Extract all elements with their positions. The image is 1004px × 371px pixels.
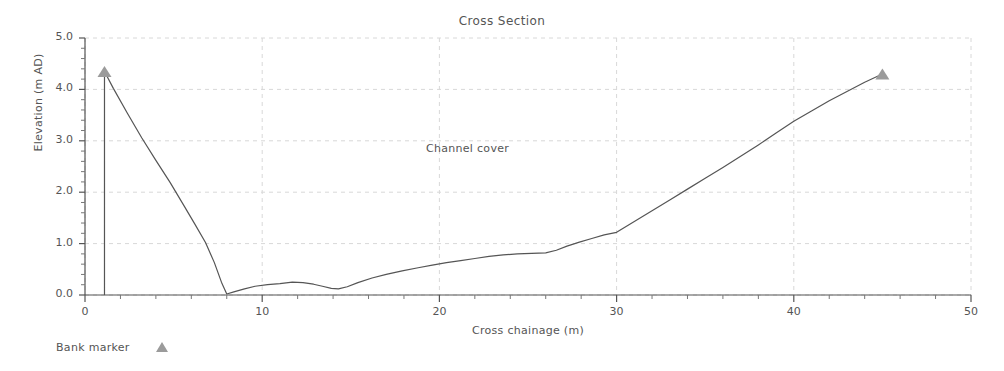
- x-tick-label: 30: [597, 305, 637, 318]
- x-tick-label: 0: [65, 305, 105, 318]
- y-tick-label: 0.0: [33, 287, 73, 300]
- channel-cover-annotation: Channel cover: [426, 142, 509, 155]
- legend: Bank marker: [56, 340, 170, 354]
- y-tick-label: 5.0: [33, 30, 73, 43]
- axis-ticks: [79, 38, 971, 302]
- bank-markers: [97, 66, 889, 80]
- y-tick-label: 4.0: [33, 81, 73, 94]
- x-tick-label: 10: [242, 305, 282, 318]
- x-tick-label: 40: [774, 305, 814, 318]
- x-tick-label: 50: [951, 305, 991, 318]
- y-tick-label: 1.0: [33, 236, 73, 249]
- y-tick-label: 3.0: [33, 133, 73, 146]
- bank-marker-triangle: [97, 66, 111, 77]
- gridlines: [85, 38, 971, 295]
- cross-section-chart: Cross Section Elevation (m AD) Cross cha…: [0, 0, 1004, 371]
- x-tick-label: 20: [419, 305, 459, 318]
- axis-spines: [85, 38, 971, 295]
- cross-section-line: [104, 71, 882, 295]
- legend-item-label: Bank marker: [56, 341, 130, 354]
- bank-marker-icon: [154, 340, 170, 354]
- plot-area: [0, 0, 1004, 371]
- bank-marker-triangle: [875, 68, 889, 79]
- y-tick-label: 2.0: [33, 184, 73, 197]
